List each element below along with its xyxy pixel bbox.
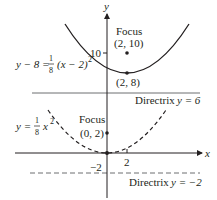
upper-equation-rhs: (x − 2) bbox=[57, 58, 88, 71]
upper-directrix-eq: y = 6 bbox=[176, 94, 201, 106]
upper-focus-coords: (2, 10) bbox=[114, 37, 144, 50]
upper-focus-point bbox=[125, 51, 129, 55]
origin-vertex-point bbox=[105, 151, 109, 155]
lower-focus-point bbox=[105, 131, 109, 135]
x-axis-label: x bbox=[204, 147, 210, 159]
diagram-canvas: y x 10 2 −2 Focus (2, 10) (2, 8) y − 8 =… bbox=[0, 0, 217, 200]
lower-directrix-label: Directrix bbox=[129, 176, 169, 188]
y-tick-neg2-label: −2 bbox=[90, 161, 102, 173]
upper-directrix-label: Directrix bbox=[135, 94, 175, 106]
upper-equation-frac-num: 1 bbox=[49, 54, 53, 63]
y-axis-label: y bbox=[103, 0, 109, 12]
lower-equation-frac-den: 8 bbox=[35, 128, 39, 137]
upper-focus-label: Focus bbox=[116, 25, 142, 37]
lower-equation-rhs: x bbox=[42, 120, 48, 132]
parabola-diagram: y x 10 2 −2 Focus (2, 10) (2, 8) y − 8 =… bbox=[0, 0, 217, 200]
upper-vertex-point bbox=[125, 71, 129, 75]
lower-focus-coords: (0, 2) bbox=[80, 127, 104, 140]
lower-equation-frac-num: 1 bbox=[35, 116, 39, 125]
lower-equation-lhs: y = bbox=[15, 120, 31, 132]
upper-vertex-coords: (2, 8) bbox=[116, 76, 140, 89]
lower-equation-exp: 2 bbox=[50, 117, 54, 126]
lower-directrix-eq: y = −2 bbox=[170, 176, 202, 188]
upper-equation-lhs: y − 8 = bbox=[15, 58, 49, 70]
lower-focus-label: Focus bbox=[79, 113, 105, 125]
upper-equation-frac-den: 8 bbox=[49, 66, 53, 75]
x-tick-2-label: 2 bbox=[124, 156, 130, 168]
upper-equation-exp: 2 bbox=[88, 55, 92, 64]
